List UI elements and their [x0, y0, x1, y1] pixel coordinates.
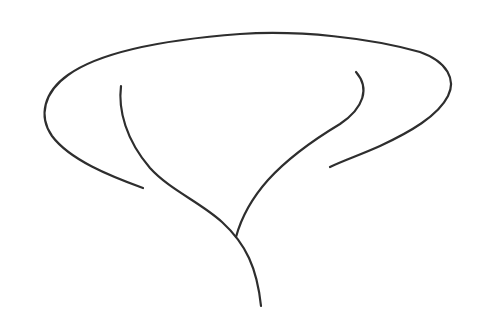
sketch-canvas — [0, 0, 482, 336]
right-inner-branch — [236, 72, 363, 237]
outer-canopy-outline — [45, 33, 451, 188]
left-inner-branch-trunk — [120, 86, 261, 306]
